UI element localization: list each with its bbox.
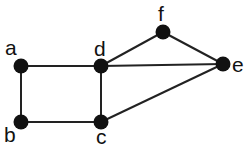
edge-c-e [101, 64, 223, 122]
node-d [94, 59, 109, 74]
graph-diagram: abcdef [0, 0, 250, 147]
labels: abcdef [4, 2, 244, 147]
node-label-a: a [5, 36, 17, 59]
edges [21, 32, 223, 122]
node-f [156, 25, 171, 40]
node-label-d: d [94, 37, 106, 60]
edge-d-f [101, 32, 163, 66]
edge-d-e [101, 64, 223, 66]
node-e [216, 57, 231, 72]
node-label-b: b [4, 123, 16, 146]
node-label-f: f [158, 2, 164, 25]
node-label-c: c [96, 125, 107, 147]
node-a [14, 59, 29, 74]
node-label-e: e [232, 53, 244, 76]
edge-f-e [163, 32, 223, 64]
node-b [14, 115, 29, 130]
